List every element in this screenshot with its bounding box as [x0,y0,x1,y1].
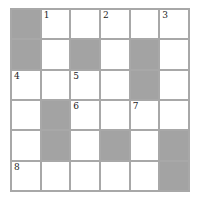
crossword-cell[interactable] [101,71,129,99]
crossword-cell[interactable] [42,40,70,68]
black-square [12,40,40,68]
crossword-cell[interactable] [101,40,129,68]
crossword-cell[interactable] [160,71,188,99]
crossword-cell[interactable]: 7 [131,101,159,129]
crossword-cell[interactable] [101,162,129,190]
crossword-cell[interactable] [131,10,159,38]
crossword-cell[interactable]: 5 [71,71,99,99]
crossword-cell[interactable] [71,10,99,38]
crossword-cell[interactable]: 3 [160,10,188,38]
clue-number: 3 [162,11,168,20]
clue-number: 5 [73,72,79,81]
crossword-cell[interactable] [42,162,70,190]
black-square [42,101,70,129]
clue-number: 6 [73,102,79,111]
crossword-cell[interactable]: 1 [42,10,70,38]
crossword-cell[interactable] [160,101,188,129]
black-square [131,40,159,68]
crossword-cell[interactable] [12,101,40,129]
crossword-cell[interactable] [131,162,159,190]
crossword-cell[interactable] [71,162,99,190]
clue-number: 1 [44,11,50,20]
black-square [131,71,159,99]
clue-number: 4 [14,72,20,81]
clue-number: 8 [14,163,20,172]
black-square [42,131,70,159]
black-square [71,40,99,68]
crossword-cell[interactable] [160,40,188,68]
crossword-cell[interactable]: 8 [12,162,40,190]
crossword-cell[interactable] [42,71,70,99]
black-square [101,131,129,159]
crossword-grid: 12345678 [10,8,190,192]
crossword-cell[interactable] [12,131,40,159]
crossword-cell[interactable] [131,131,159,159]
crossword-cell[interactable] [71,131,99,159]
black-square [160,131,188,159]
black-square [160,162,188,190]
crossword-cell[interactable]: 2 [101,10,129,38]
black-square [12,10,40,38]
crossword-cell[interactable]: 4 [12,71,40,99]
crossword-cell[interactable] [101,101,129,129]
crossword-cell[interactable]: 6 [71,101,99,129]
clue-number: 7 [133,102,139,111]
clue-number: 2 [103,11,109,20]
